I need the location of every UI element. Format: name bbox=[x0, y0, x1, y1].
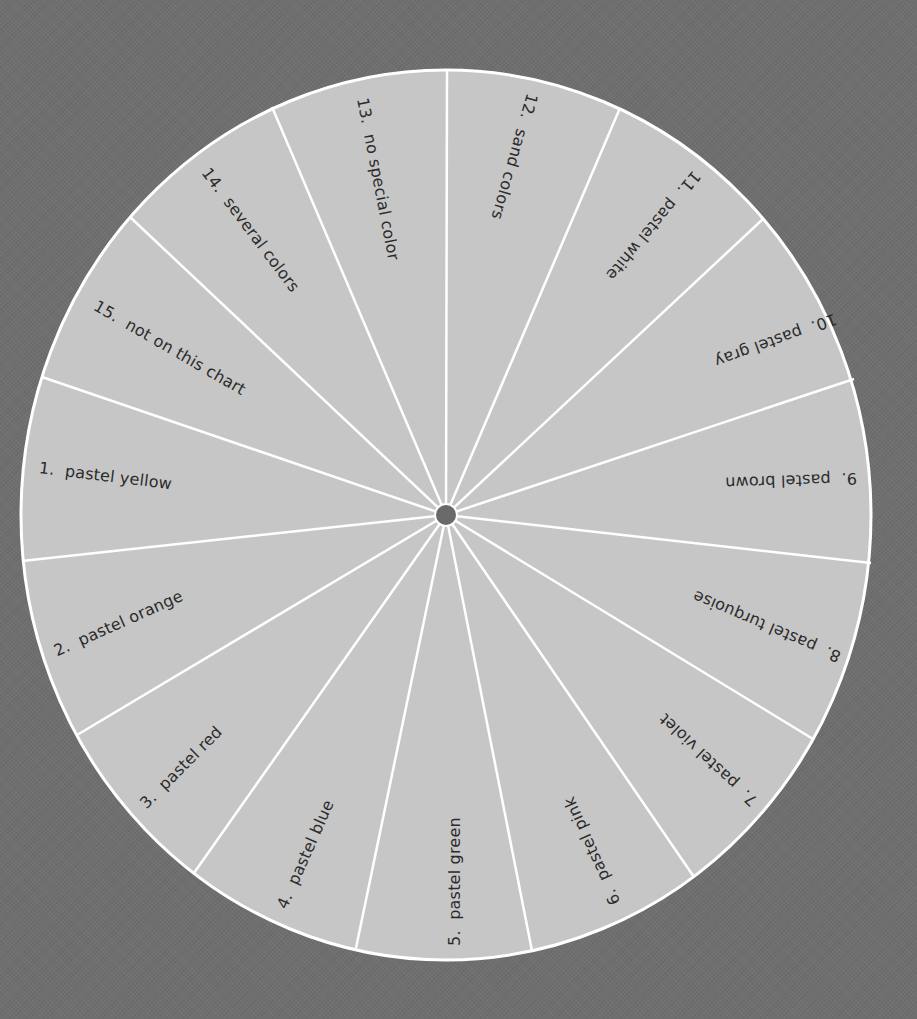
segment-label-pastel-green[interactable]: 5. pastel green bbox=[445, 817, 465, 946]
center-hub bbox=[435, 504, 457, 526]
segment-divider-line bbox=[446, 70, 447, 515]
